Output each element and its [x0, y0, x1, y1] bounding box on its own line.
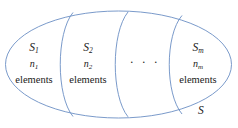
compartment-2-unit: elements [62, 75, 114, 86]
compartment-m-count: nm [170, 59, 226, 71]
compartment-2-count: n2 [62, 59, 114, 71]
compartment-m-unit: elements [170, 75, 226, 86]
ellipsis-compartment: · · · [120, 56, 170, 68]
compartment-m-symbol: Sm [170, 42, 226, 55]
compartment-1-symbol: S1 [8, 42, 60, 55]
compartment-2-symbol: S2 [62, 42, 114, 55]
compartment-m: Sm nm elements [170, 42, 226, 86]
compartment-2: S2 n2 elements [62, 42, 114, 86]
compartment-1: S1 n1 elements [8, 42, 60, 86]
compartment-1-unit: elements [8, 75, 60, 86]
compartment-1-count: n1 [8, 59, 60, 71]
set-partition-diagram: S1 n1 elements S2 n2 elements · · · Sm n… [0, 0, 238, 128]
outer-set-label: S [198, 104, 204, 116]
